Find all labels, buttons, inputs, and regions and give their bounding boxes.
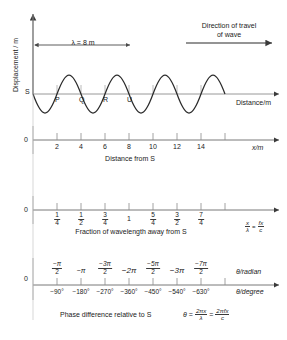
axis4-radian-tick-whole: −π [77,267,86,274]
axis4-degree-tick: −90° [50,288,64,295]
axis4-degree-tick: −630° [192,288,209,295]
formula-theta: θ [183,311,187,318]
x-axis-label-distance: Distance/m [236,99,271,106]
axis4-radian-tick: −5π 2 [146,261,160,275]
axis4-degree-tick: −180° [72,288,89,295]
axis4-radian-tick-whole: −2π [122,266,136,275]
radian-denominator: 2 [146,268,160,276]
point-label-U: U [127,96,132,103]
axis4-degree-tick: −360° [120,288,137,295]
axis4-radian-tick: −3π 2 [98,261,112,275]
axis4-radian-tick: −7π 2 [194,261,208,275]
ratio-denominator: λ [245,226,250,233]
axis3-tick-fraction: 3 4 [102,212,108,226]
axis4-degree-axis-label: θ/degree [236,288,264,295]
fraction-denominator: 4 [150,219,156,227]
ratio-fx-c: fx c [258,220,265,233]
axis3-zero: 0 [24,206,28,213]
fraction-denominator: 2 [174,219,180,227]
direction-of-travel-line1: Direction of travel [202,22,256,29]
fraction-numerator: 1 [78,212,84,219]
radian-numerator: −5π [146,261,160,268]
axis4-zero: 0 [24,275,28,282]
axis4-radian-tick-whole: −3π [170,266,184,275]
axis2-tick-label: 2 [55,143,59,150]
source-point-label-S: S [25,88,30,95]
fraction-numerator: 3 [102,212,108,219]
fraction-denominator: 4 [198,219,204,227]
panel-fraction-scale [33,196,279,224]
radian-numerator: −3π [98,261,112,268]
fraction-denominator: 4 [102,219,108,227]
formula-numerator: 2πfx [215,308,229,314]
formula-equals-1: = [189,311,193,318]
axis3-tick-fraction: 1 4 [54,212,60,226]
wavelength-label: λ = 8 m [71,39,94,46]
formula-denominator: λ [195,314,207,321]
axis4-caption: Phase difference relative to S [60,311,151,318]
ratio-x-lambda: x λ [245,220,250,233]
axis2-tick-label: 14 [197,143,205,150]
axis4-degree-tick: −540° [168,288,185,295]
radian-numerator: −7π [194,261,208,268]
axis3-right-label: x λ = fx c [245,220,264,233]
axis2-tick-label: 6 [103,143,107,150]
axis2-right-label: x/m [252,144,263,151]
formula-fraction-c: 2πfx c [215,308,229,321]
axis3-tick-fraction: 5 4 [150,212,156,226]
fraction-numerator: 1 [54,212,60,219]
fraction-numerator: 3 [174,212,180,219]
equals-sign: = [252,224,256,230]
axis3-caption: Fraction of wavelength away from S [75,228,186,235]
point-label-R: R [103,96,108,103]
axis2-tick-label: 12 [173,143,181,150]
fraction-denominator: 4 [54,219,60,227]
fraction-numerator: 5 [150,212,156,219]
formula-numerator: 2πx [195,308,207,314]
y-axis-label: Displacement / m [12,38,19,92]
radian-denominator: 2 [194,268,208,276]
axis3-tick-whole: 1 [127,215,131,222]
axis4-radian-axis-label: θ/radian [236,268,261,275]
direction-of-travel-line2: of wave [217,31,241,38]
radian-numerator: −π [52,261,62,268]
radian-denominator: 2 [52,268,62,276]
axis2-tick-label: 4 [79,143,83,150]
point-label-P: P [55,96,60,103]
ratio-numerator: fx [258,220,265,226]
axis4-radian-tick: −π 2 [52,261,62,275]
point-label-Q: Q [79,96,84,103]
axis3-tick-fraction: 7 4 [198,212,204,226]
axis2-tick-label: 10 [149,143,157,150]
fraction-numerator: 7 [198,212,204,219]
formula-fraction-lambda: 2πx λ [195,308,207,321]
formula-denominator: c [215,314,229,321]
axis3-tick-fraction: 3 2 [174,212,180,226]
phase-formula: θ = 2πx λ = 2πfx c [183,308,229,321]
axis4-degree-tick: −450° [144,288,161,295]
axis2-tick-label: 8 [127,143,131,150]
fraction-denominator: 2 [78,219,84,227]
axis2-zero: 0 [24,136,28,143]
axis4-degree-tick: −270° [96,288,113,295]
formula-equals-2: = [209,311,213,318]
radian-denominator: 2 [98,268,112,276]
axis3-tick-fraction: 1 2 [78,212,84,226]
axis2-caption: Distance from S [105,155,155,162]
ratio-denominator: c [258,226,265,233]
